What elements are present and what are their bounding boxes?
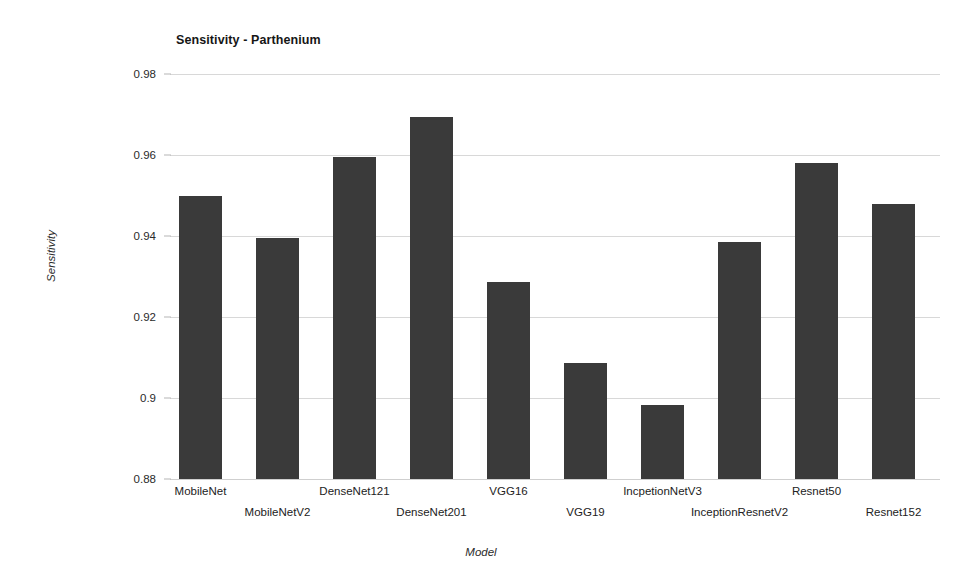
bar	[179, 196, 222, 480]
bar	[795, 163, 838, 479]
bar	[564, 363, 607, 479]
y-tick-label: 0.96	[134, 149, 156, 161]
x-tick-label: InceptionResnetV2	[691, 506, 788, 518]
y-tick-label: 0.9	[140, 392, 156, 404]
bar	[872, 204, 915, 479]
y-tick-label: 0.98	[134, 68, 156, 80]
y-tick-label: 0.88	[134, 473, 156, 485]
x-tick-label: MobileNet	[175, 485, 227, 497]
y-tick-label: 0.92	[134, 311, 156, 323]
x-tick-label: DenseNet121	[319, 485, 389, 497]
x-tick-label: MobileNetV2	[245, 506, 311, 518]
x-tick-label: IncpetionNetV3	[623, 485, 702, 497]
x-tick-label: VGG19	[566, 506, 604, 518]
y-tick-label: 0.94	[134, 230, 156, 242]
y-axis-ticks: 0.980.960.940.920.90.88	[0, 74, 170, 479]
sensitivity-bar-chart: Sensitivity - Parthenium Sensitivity 0.9…	[0, 0, 962, 581]
bar	[410, 117, 453, 479]
x-tick-label: Resnet152	[866, 506, 922, 518]
x-axis-title: Model	[0, 546, 962, 558]
bar	[256, 238, 299, 479]
bar	[641, 405, 684, 479]
x-tick-label: Resnet50	[792, 485, 841, 497]
x-tick-label: DenseNet201	[396, 506, 466, 518]
x-tick-label: VGG16	[489, 485, 527, 497]
bar	[333, 157, 376, 479]
bar	[718, 242, 761, 479]
chart-title: Sensitivity - Parthenium	[176, 33, 321, 47]
bar	[487, 282, 530, 479]
x-axis-labels: MobileNetMobileNetV2DenseNet121DenseNet2…	[170, 479, 940, 539]
bars-layer	[170, 74, 940, 479]
